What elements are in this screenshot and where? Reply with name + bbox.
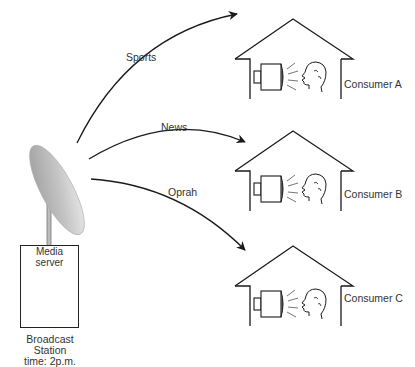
channel-label-news: News: [161, 122, 187, 133]
media-server-title-line2: server: [20, 257, 79, 268]
house-consumer-a: [235, 19, 353, 99]
channel-label-oprah: Oprah: [168, 187, 197, 198]
media-server-title: Media server: [20, 246, 79, 268]
station-caption-line1: Broadcast: [0, 334, 100, 345]
satellite-dish-icon: [19, 138, 94, 241]
station-caption-line3: time: 2p.m.: [0, 356, 100, 367]
channel-label-sports: Sports: [126, 52, 156, 63]
house-consumer-b: [235, 131, 353, 211]
house-consumer-c: [235, 246, 353, 326]
channel-arrow-sports: [77, 14, 237, 143]
consumer-label-b: Consumer B: [344, 189, 402, 200]
consumer-label-c: Consumer C: [344, 293, 403, 304]
channel-arrow-news: [89, 129, 245, 159]
consumer-label-a: Consumer A: [344, 79, 402, 90]
station-caption-line2: Station: [0, 345, 100, 356]
media-server-title-line1: Media: [20, 246, 79, 257]
